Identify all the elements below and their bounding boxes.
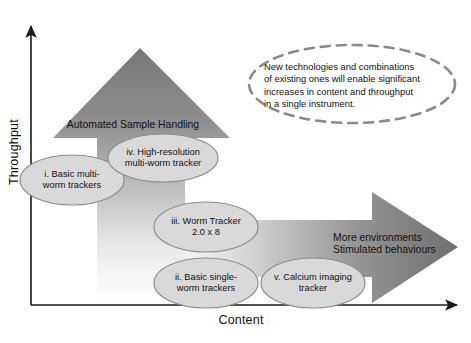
node-label-ii[interactable]: ii. Basic single- worm trackers — [156, 272, 256, 294]
y-axis-label: Throughput — [7, 125, 21, 185]
figure-canvas: Throughput Content Automated Sample Hand… — [0, 0, 471, 343]
throughput-arrow-label: Automated Sample Handling — [38, 119, 228, 131]
content-arrow-label: More environments Stimulated behaviours — [333, 232, 461, 256]
x-axis-label: Content — [186, 313, 296, 327]
callout-label: New technologies and combinations of exi… — [264, 61, 446, 111]
node-label-iv[interactable]: iv. High-resolution multi-worm tracker — [108, 147, 218, 169]
node-label-iii[interactable]: iii. Worm Tracker 2.0 x 8 — [156, 216, 256, 238]
node-label-v[interactable]: v. Calcium imaging tracker — [262, 272, 364, 294]
node-label-i[interactable]: i. Basic multi- worm trackers — [22, 169, 122, 191]
